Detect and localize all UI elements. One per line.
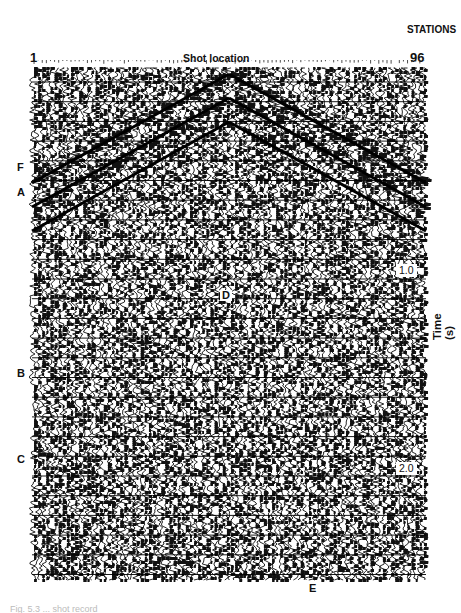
- event-label-c: C: [17, 454, 25, 465]
- station-last-label: 96: [410, 51, 424, 64]
- stations-axis-label: STATIONS: [407, 25, 456, 35]
- event-label-e: E: [309, 583, 316, 594]
- event-label-b: B: [17, 368, 25, 379]
- event-label-f: F: [17, 162, 24, 173]
- event-label-d: D: [220, 290, 232, 301]
- time-axis-label: Time (s): [432, 311, 455, 340]
- station-first-label: 1: [30, 51, 37, 64]
- event-label-a: A: [17, 187, 25, 198]
- seismic-record-plot: [32, 68, 426, 580]
- time-tick-1: 1.0: [396, 264, 417, 277]
- time-tick-2: 2.0: [396, 462, 417, 475]
- figure-caption: Fig. 5.3 ... shot record: [10, 604, 98, 613]
